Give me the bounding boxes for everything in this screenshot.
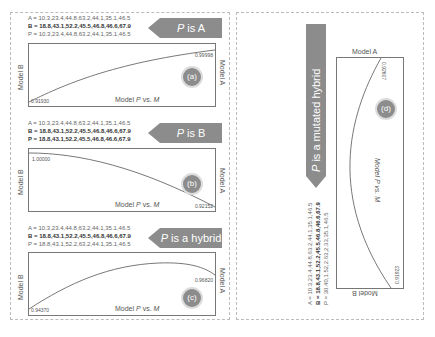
panel-b-right-value: 0.92152: [195, 203, 213, 209]
panel-c-formula-b: B = 18.8,43.1,52.2,45.5,46.8,46.6,67.9: [28, 233, 131, 241]
panel-b-formula-b: B = 18.8,43.1,52.2,45.5,46.8,46.6,67.9: [28, 128, 131, 136]
panel-d-plot: 0.92607 0.91923 (d) Model P vs. M: [336, 57, 404, 289]
panel-c-formula-p: P = 18.8,43.1,52.2,63.2,44.1,35.1,46.5: [28, 241, 130, 249]
panel-d-top-label: Model A: [352, 48, 377, 55]
panel-c-formula-a: A = 10.3,23.4,44.8,63.2,44.1,35.1,46.5: [28, 225, 130, 233]
panel-d-curve: [337, 58, 403, 288]
panel-d-bottom-label: Model B: [352, 290, 378, 297]
panel-a-formula-a: A = 10.3,23.4,44.8,63.2,44.1,35.1,46.5: [28, 15, 130, 23]
panel-c-xlabel: Model P vs. M: [115, 305, 159, 312]
panel-c-plot: 0.94370 0.96820 (c) Model P vs. M: [28, 252, 216, 316]
panel-b-badge: (b): [181, 173, 203, 195]
panel-a-badge: (a): [181, 66, 203, 88]
panel-a-left-value: 0.91930: [31, 98, 49, 104]
panel-d-banner: P is a mutated hybrid: [306, 24, 326, 176]
panel-a-xlabel: Model P vs. M: [115, 96, 159, 103]
panel-d-badge: (d): [375, 98, 397, 120]
panel-a-banner: P is A: [160, 18, 222, 38]
panel-a-plot: 0.91930 0.99998 (a) Model P vs. M: [28, 43, 216, 107]
panel-d-formula-a: A = 10.3,23.4,44.8,63.2,44.1,35.1,46.5: [307, 203, 315, 305]
panel-c-left-value: 0.94370: [31, 307, 49, 313]
panel-d-formula-p: P = 30.40,1.52,2.63,2.33,35.1,46.5: [323, 213, 331, 305]
panel-c-ylabel: Model B: [17, 274, 24, 300]
panel-b-left-value: 1.00000: [32, 156, 50, 162]
panel-a-ylabel: Model B: [17, 64, 24, 90]
panel-a-rlabel: Model A: [219, 60, 226, 85]
panel-d-xlabel: Model P vs. M: [374, 158, 381, 202]
panel-c-right-value: 0.96820: [195, 277, 213, 283]
panel-c-rlabel: Model A: [219, 268, 226, 293]
panel-b-rlabel: Model A: [219, 168, 226, 193]
panel-b-ylabel: Model B: [17, 169, 24, 195]
panel-c-badge: (c): [181, 287, 203, 309]
panel-b-formula-p: P = 18.8,43.1,52.2,45.5,46.8,46.6,67.9: [28, 136, 130, 144]
panel-c-banner: P is a hybrid: [160, 228, 222, 248]
panel-b-formula-a: A = 10.3,23.4,44.8,63.2,44.1,35.1,46.5: [28, 120, 130, 128]
panel-a-formula-p: P = 10.3,23.4,44.8,63.2,44.1,35.1,46.5: [28, 31, 130, 39]
panel-b-plot: 1.00000 0.92152 (b) Model P vs. M: [28, 148, 216, 212]
panel-d-formula-b: B = 18.8,43.1,52.2,45.5,46.8,46.6,67.9: [315, 202, 323, 305]
panel-d-left-value: 0.91923: [394, 266, 400, 284]
panel-a-formula-b: B = 18.8,43.1,52.2,45.5,46.8,46.6,67.9: [28, 23, 131, 31]
panel-b-xlabel: Model P vs. M: [115, 201, 159, 208]
panel-d-right-value: 0.92607: [381, 62, 387, 80]
panel-a-right-value: 0.99998: [195, 52, 213, 58]
panel-b-banner: P is B: [160, 123, 222, 143]
